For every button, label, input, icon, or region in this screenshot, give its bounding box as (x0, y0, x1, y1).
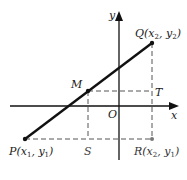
point-r-label: R(x2, y1) (134, 146, 179, 159)
y-axis-arrow-icon (115, 11, 123, 21)
point-p-label: P(x1, y1) (9, 146, 53, 159)
point-p (23, 137, 27, 141)
point-q-name: Q (135, 27, 144, 40)
point-m-label: M (71, 79, 82, 90)
point-s-label: S (84, 146, 92, 157)
point-q-label: Q(x2, y2) (135, 28, 181, 41)
point-r (150, 137, 154, 141)
point-m (86, 89, 90, 93)
q-x-coord: x2 (148, 27, 159, 40)
r-y-coord: y1 (164, 145, 175, 158)
p-y-coord: y1 (38, 145, 49, 158)
point-t-label: T (155, 87, 162, 98)
origin-label: O (108, 109, 117, 120)
point-r-name: R (134, 145, 142, 158)
point-q (150, 41, 154, 45)
x-axis-label: x (171, 110, 177, 121)
point-p-name: P (9, 145, 16, 158)
r-x-coord: x2 (147, 145, 158, 158)
q-y-coord: y2 (166, 27, 177, 40)
p-x-coord: x1 (21, 145, 32, 158)
y-axis-label: y (109, 10, 115, 21)
